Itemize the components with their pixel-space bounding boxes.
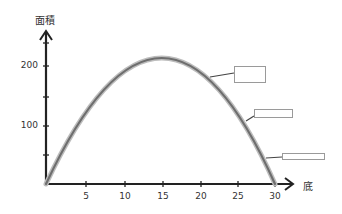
y-tick-label: 200 bbox=[12, 60, 38, 70]
x-axis-title: 底 bbox=[303, 178, 313, 193]
annotation-box-middle[interactable] bbox=[254, 109, 293, 118]
x-tick-label: 25 bbox=[232, 191, 243, 201]
leader-line bbox=[266, 157, 282, 158]
y-tick-label: 100 bbox=[12, 120, 38, 130]
annotation-box-lower[interactable] bbox=[282, 153, 325, 160]
x-tick-label: 5 bbox=[83, 191, 89, 201]
x-tick-label: 20 bbox=[195, 191, 206, 201]
leader-line bbox=[246, 116, 254, 121]
x-tick-label: 15 bbox=[157, 191, 168, 201]
chart-canvas bbox=[0, 0, 342, 214]
y-axis-title: 面積 bbox=[35, 12, 55, 27]
leader-line bbox=[210, 73, 234, 77]
annotation-box-upper[interactable] bbox=[234, 66, 266, 83]
x-tick-label: 10 bbox=[119, 191, 130, 201]
x-tick-label: 30 bbox=[269, 191, 280, 201]
